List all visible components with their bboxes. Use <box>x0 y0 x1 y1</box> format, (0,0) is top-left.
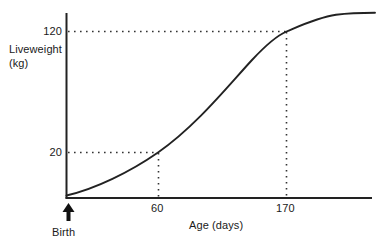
y-axis-title-line2: (kg) <box>9 56 62 70</box>
birth-marker-label: Birth <box>52 226 75 239</box>
liveweight-growth-chart: 120 20 Liveweight (kg) 60 170 Age (days)… <box>0 0 377 244</box>
growth-curve-line <box>67 13 376 196</box>
x-axis-tick-label-60: 60 <box>151 202 163 215</box>
y-axis-tick-label-120: 120 <box>43 25 62 38</box>
y-axis-tick-label-20: 20 <box>50 146 62 159</box>
x-axis-title: Age (days) <box>189 219 243 232</box>
y-axis-title-line1: Liveweight <box>9 42 62 56</box>
up-arrow-icon <box>63 203 75 221</box>
x-axis-tick-label-170: 170 <box>276 202 295 215</box>
y-axis-title: Liveweight (kg) <box>9 42 62 70</box>
